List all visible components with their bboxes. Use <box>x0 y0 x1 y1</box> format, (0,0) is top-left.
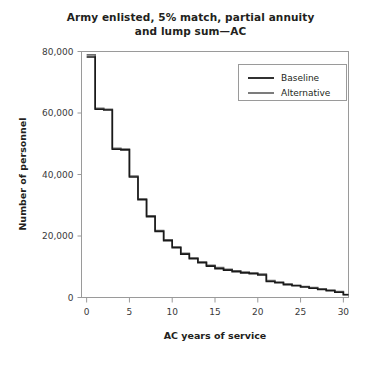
chart-legend: BaselineAlternative <box>239 65 347 101</box>
x-tick-label: 10 <box>166 307 178 317</box>
y-tick-label: 20,000 <box>42 231 74 241</box>
x-tick-label: 30 <box>338 307 350 317</box>
y-tick-label: 40,000 <box>42 170 74 180</box>
legend-label-alternative: Alternative <box>281 88 331 98</box>
y-tick-label: 0 <box>68 293 74 303</box>
x-axis-title: AC years of service <box>164 330 267 341</box>
y-tick-label: 80,000 <box>42 47 74 57</box>
x-axis-ticks: 051015202530 <box>84 298 350 317</box>
y-axis-ticks: 020,00040,00060,00080,000 <box>42 47 82 303</box>
x-tick-label: 5 <box>127 307 133 317</box>
legend-label-baseline: Baseline <box>281 73 320 83</box>
chart-figure: Army enlisted, 5% match, partial annuity… <box>0 0 381 371</box>
x-tick-label: 15 <box>209 307 220 317</box>
x-tick-label: 0 <box>84 307 90 317</box>
chart-plot-area: 020,00040,00060,00080,000 051015202530 N… <box>0 0 381 371</box>
y-axis-title: Number of personnel <box>17 117 28 230</box>
x-tick-label: 20 <box>252 307 264 317</box>
y-tick-label: 60,000 <box>42 108 74 118</box>
x-tick-label: 25 <box>295 307 306 317</box>
